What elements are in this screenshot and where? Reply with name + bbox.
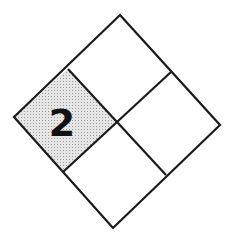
left-quadrant-value: 2: [49, 101, 75, 145]
hazard-diamond: 2: [0, 0, 231, 235]
